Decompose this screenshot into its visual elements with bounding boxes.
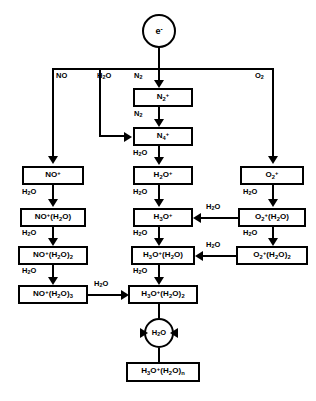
edge-o2h2o-to-h3oplus [200, 217, 238, 219]
edge-label-no2-to-no3: H2O [22, 267, 36, 276]
node-o2-h2o-label: O2+(H2O) [255, 213, 289, 223]
node-h3o-plus-label: H3O+ [154, 213, 173, 223]
edge-o2-bus-drop [272, 68, 274, 157]
electron-source-label: e- [155, 26, 162, 36]
node-hydration-h2o-label: H2O [152, 329, 166, 338]
node-n4-plus-label: N4+ [157, 132, 170, 142]
arrowhead-o2h2o-to-o2h2o2 [268, 238, 278, 246]
edge-hydration-to-final [158, 348, 160, 362]
arrowhead-o2h2o-to-h3oplus [193, 213, 201, 223]
node-o2-h2o: O2+(H2O) [238, 208, 306, 227]
edge-label-n4-to-h2o: H2O [133, 149, 147, 158]
arrowhead-n2plus-to-n4plus [154, 119, 164, 127]
edge-label-h3o1-to-h3o2: H2O [133, 267, 147, 276]
arrowhead-h2oplus-to-h3oplus [154, 199, 164, 207]
arrowhead-hydration-left [140, 328, 148, 338]
arrowhead-noh2o2-to-noh2o3 [48, 277, 58, 285]
node-h2o-plus: H2O+ [133, 166, 193, 185]
bus-label-o2: O2 [255, 72, 264, 81]
arrowhead-no-to-noplus [48, 156, 58, 164]
electron-source-node: e- [142, 14, 176, 48]
edge-label-o2w2-to-h3o1: H2O [206, 241, 220, 250]
node-n4-plus: N4+ [133, 127, 193, 146]
node-no-h2o: NO+(H2O) [20, 208, 86, 227]
edge-label-no-to-no1: H2O [22, 188, 36, 197]
arrowhead-h3oplus-to-h3oh2o [154, 238, 164, 246]
edge-h2o-bus-drop [99, 68, 101, 137]
node-h3o-h2o-label: H3O+(H2O) [143, 251, 183, 261]
edge-label-no1-to-no2: H2O [22, 229, 36, 238]
node-no-h2o-3-label: NO+(H2O)3 [33, 290, 73, 300]
node-no-h2o-label: NO+(H2O) [35, 213, 72, 223]
node-o2-plus-label: O2+ [265, 171, 278, 181]
edge-o2plus-to-o2h2o [272, 185, 274, 200]
edge-label-no3-to-h3o2: H2O [94, 280, 108, 289]
node-no-plus: NO+ [22, 166, 84, 185]
bus-label-n2: N2 [134, 72, 142, 81]
node-n2-plus: N2+ [133, 88, 193, 107]
arrowhead-n4plus-to-h2oplus [154, 157, 164, 165]
edge-noplus-to-noh2o [52, 185, 54, 200]
node-o2-h2o-2-label: O2+(H2O)2 [253, 251, 290, 261]
arrowhead-h2o-to-n4plus [124, 132, 132, 142]
node-h3o-h2o-2: H3O+(H2O)2 [128, 285, 198, 304]
arrowhead-o2plus-to-o2h2o [268, 199, 278, 207]
arrowhead-noplus-to-noh2o [48, 199, 58, 207]
arrowhead-h3oh2o-to-h3oh2o2 [154, 277, 164, 285]
node-o2-plus: O2+ [240, 166, 304, 185]
arrowhead-o2-to-o2plus [268, 156, 278, 164]
edge-label-n2-to-n4: N2 [134, 110, 142, 119]
edge-o2h2o2-to-h3oh2o [202, 255, 236, 257]
arrowhead-bus-to-n2plus [154, 80, 164, 88]
edge-label-o2w1-to-h3o: H2O [206, 203, 220, 212]
node-no-h2o-2-label: NO+(H2O)2 [33, 251, 73, 261]
edge-noh2o3-to-h3oh2o2 [88, 294, 124, 296]
edge-label-o2w1-to-o2w2: H2O [243, 229, 257, 238]
node-h3o-h2o-n: H3O+(H2O)n [126, 362, 200, 382]
node-h2o-plus-label: H2O+ [154, 171, 173, 181]
edge-label-h2o-to-h3o: H2O [133, 188, 147, 197]
node-no-plus-label: NO+ [45, 171, 61, 179]
edge-no-bus-drop [52, 68, 54, 157]
node-n2-plus-label: N2+ [157, 93, 170, 103]
node-h3o-h2o-2-label: H3O+(H2O)2 [141, 290, 184, 300]
node-h3o-plus: H3O+ [133, 208, 193, 227]
ion-reaction-flowchart: e- NO H2O N2 O2 N2+ N2 N4+ H2O H2O+ H2O … [0, 0, 316, 401]
node-h3o-h2o-n-label: H3O+(H2O)n [141, 367, 185, 377]
edge-label-h3o-to-h3o1: H2O [133, 229, 147, 238]
node-no-h2o-3: NO+(H2O)3 [18, 285, 88, 304]
arrowhead-hydration-right [170, 328, 178, 338]
edge-h2o-to-n4plus [99, 135, 125, 137]
node-o2-h2o-2: O2+(H2O)2 [236, 246, 308, 265]
edge-h2oplus-to-h3oplus [158, 185, 160, 200]
node-h3o-h2o: H3O+(H2O) [131, 246, 195, 265]
arrowhead-o2h2o2-to-h3oh2o [195, 251, 203, 261]
bus-label-no: NO [56, 72, 67, 80]
edge-electron-to-bus [158, 47, 160, 69]
node-no-h2o-2: NO+(H2O)2 [18, 246, 88, 265]
arrowhead-noh2o-to-noh2o2 [48, 238, 58, 246]
edge-label-o2-to-o2w1: H2O [243, 188, 257, 197]
edge-h3oh2o2-to-hydration [158, 304, 160, 318]
arrowhead-noh2o3-to-h3oh2o2 [121, 290, 129, 300]
